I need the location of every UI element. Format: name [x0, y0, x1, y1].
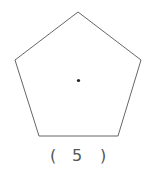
answer-label: ( 5 ) [0, 146, 148, 170]
pentagon-shape [15, 12, 141, 136]
open-paren: ( [50, 146, 56, 165]
center-dot [77, 79, 80, 82]
close-paren: ) [100, 146, 106, 165]
answer-value: 5 [72, 146, 82, 165]
